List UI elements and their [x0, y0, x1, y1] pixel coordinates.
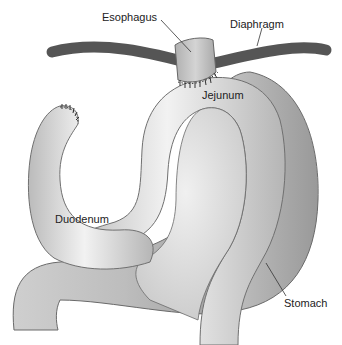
esophagus-shape [175, 38, 216, 82]
anatomy-diagram: Esophagus Diaphragm Jejunum Duodenum Sto… [0, 0, 342, 345]
duodenum-shape [28, 106, 153, 269]
label-esophagus: Esophagus [102, 11, 158, 23]
diaphragm-leader-line [257, 28, 262, 46]
label-stomach: Stomach [284, 297, 327, 309]
label-jejunum: Jejunum [202, 89, 244, 101]
label-duodenum: Duodenum [55, 213, 109, 225]
label-diaphragm: Diaphragm [230, 18, 284, 30]
